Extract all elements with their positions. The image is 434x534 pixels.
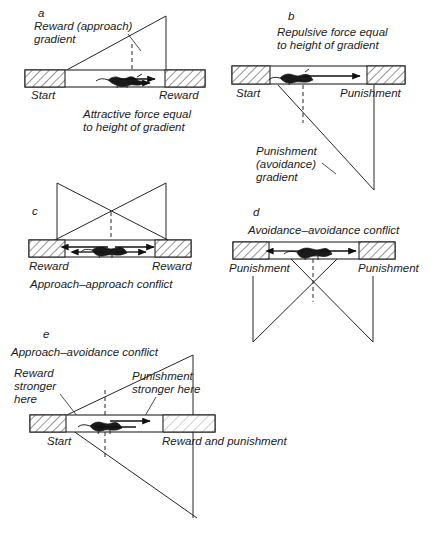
panel-b-punishment-zone xyxy=(367,66,405,84)
panel-a: a Reward (approach) gradient Start Rewar… xyxy=(25,7,205,133)
panel-c-letter: c xyxy=(32,205,38,217)
panel-e: e Approach–avoidance conflict Reward str… xyxy=(10,328,287,518)
panel-c-left-gradient xyxy=(57,183,170,241)
figure-canvas: a Reward (approach) gradient Start Rewar… xyxy=(0,0,434,534)
panel-e-letter: e xyxy=(43,328,49,340)
panel-d-left-punishment-zone xyxy=(233,242,269,259)
panel-c-left-reward-zone xyxy=(29,240,65,257)
panel-a-gradient-label-line1: Reward (approach) xyxy=(34,20,133,32)
panel-b-start-label: Start xyxy=(236,87,261,99)
panel-e-start-label: Start xyxy=(47,435,72,447)
panel-b-gradient-label-line2: (avoidance) xyxy=(256,158,316,170)
panel-e-reward-note-line2: stronger xyxy=(14,380,57,392)
panel-d-right-punishment-zone xyxy=(359,242,395,259)
panel-e-punishment-note-leader xyxy=(145,397,156,416)
panel-c-caption: Approach–approach conflict xyxy=(29,278,173,290)
panel-d-right-punishment-label: Punishment xyxy=(358,262,420,274)
conflict-gradients-figure: a Reward (approach) gradient Start Rewar… xyxy=(0,0,434,534)
panel-b-letter: b xyxy=(288,10,295,22)
panel-d-left-punishment-label: Punishment xyxy=(229,262,291,274)
panel-c-right-reward-zone xyxy=(155,240,191,257)
panel-d-letter: d xyxy=(253,206,260,218)
panel-d-caption: Avoidance–avoidance conflict xyxy=(247,224,400,236)
panel-c-right-reward-label: Reward xyxy=(152,260,192,272)
panel-e-caption: Approach–avoidance conflict xyxy=(10,346,159,358)
panel-e-punishment-note-line1: Punishment xyxy=(132,370,194,382)
panel-a-reward-zone xyxy=(165,70,205,87)
panel-c-left-reward-label: Reward xyxy=(29,260,69,272)
panel-a-gradient-label-line2: gradient xyxy=(34,33,76,45)
panel-d: d Avoidance–avoidance conflict Punishmen… xyxy=(229,206,420,342)
panel-b-caption-line2: to height of gradient xyxy=(277,39,379,51)
panel-e-reward-note-line1: Reward xyxy=(14,367,54,379)
panel-e-reward-note-line3: here xyxy=(14,393,37,405)
panel-e-reward-punishment-zone xyxy=(163,415,215,432)
panel-e-reward-punishment-label: Reward and punishment xyxy=(162,435,287,447)
panel-a-leader-line xyxy=(128,34,141,51)
panel-b-punishment-label: Punishment xyxy=(340,87,402,99)
panel-c: c Reward Reward Approach–approach confli… xyxy=(29,183,192,290)
panel-a-letter: a xyxy=(38,7,44,19)
panel-e-punishment-note-line2: stronger here xyxy=(132,383,200,395)
panel-a-caption-line1: Attractive force equal xyxy=(82,108,191,120)
panel-b: b Repulsive force equal to height of gra… xyxy=(232,10,405,190)
panel-b-gradient-label-line3: gradient xyxy=(256,171,298,183)
panel-b-gradient-label-line1: Punishment xyxy=(256,145,318,157)
panel-c-right-gradient xyxy=(53,183,166,241)
panel-a-reward-label: Reward xyxy=(159,89,199,101)
panel-a-caption-line2: to height of gradient xyxy=(83,121,185,133)
panel-a-start-zone xyxy=(25,70,65,87)
panel-a-start-label: Start xyxy=(31,89,56,101)
panel-b-leader-line xyxy=(322,163,336,174)
panel-e-start-zone xyxy=(30,415,66,432)
panel-b-caption-line1: Repulsive force equal xyxy=(277,26,388,38)
panel-b-start-zone xyxy=(232,66,270,84)
